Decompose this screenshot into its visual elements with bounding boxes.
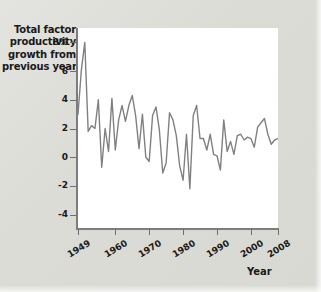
x-tick-mark <box>115 229 116 235</box>
x-tick-mark <box>149 229 150 235</box>
x-tick-mark <box>251 229 252 235</box>
y-tick-label: 6 <box>30 67 68 76</box>
y-tick-mark <box>70 215 77 216</box>
data-series-line <box>78 28 278 229</box>
y-tick-label: -2 <box>30 181 68 190</box>
x-tick-mark <box>217 229 218 235</box>
y-tick-label: 4 <box>30 95 68 104</box>
y-axis-title-line-1: Total factor <box>2 24 76 36</box>
y-tick-label: 2 <box>30 124 68 133</box>
y-tick-mark <box>70 100 77 101</box>
y-tick-mark <box>70 186 77 187</box>
plot-area <box>78 28 278 229</box>
y-tick-mark <box>70 129 77 130</box>
chart-figure: Total factor productivity growth from pr… <box>0 0 321 292</box>
y-tick-mark <box>70 157 77 158</box>
y-tick-mark <box>70 42 77 43</box>
y-tick-label: -4 <box>30 210 68 219</box>
x-axis-line <box>76 228 279 230</box>
y-tick-label: 8% <box>30 38 68 47</box>
x-tick-mark <box>78 229 79 235</box>
y-axis-title-line-3: growth from <box>2 49 76 61</box>
y-tick-label: 0 <box>30 153 68 162</box>
x-axis-title: Year <box>247 266 272 277</box>
x-tick-mark <box>183 229 184 235</box>
y-tick-mark <box>70 71 77 72</box>
x-tick-mark <box>278 229 279 235</box>
